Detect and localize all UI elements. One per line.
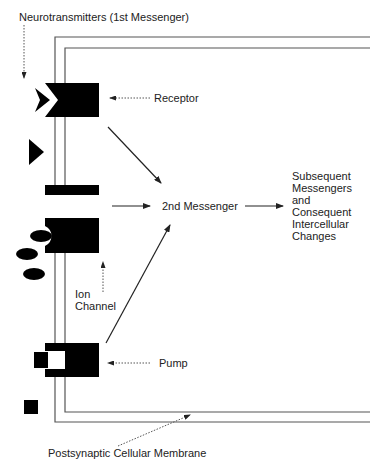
membrane-protein-bar <box>45 185 99 195</box>
subsequent-changes-label: Subsequent Messengers and Consequent Int… <box>292 170 352 242</box>
ion-icon <box>30 230 52 242</box>
pump-label: Pump <box>159 357 188 369</box>
pump-to-second-messenger-arrow <box>106 225 170 343</box>
free-ligand-triangle-icon <box>29 139 44 165</box>
membrane-label: Postsynaptic Cellular Membrane <box>48 447 206 459</box>
neurotransmitters-label: Neurotransmitters (1st Messenger) <box>19 11 189 23</box>
ion-icon <box>23 268 45 280</box>
pump-cargo-square-icon <box>34 352 48 368</box>
pump-shape <box>45 343 99 377</box>
ion-channel-shape <box>45 218 99 253</box>
receptor-to-second-messenger-arrow <box>108 127 161 183</box>
free-cargo-square-icon <box>24 400 38 414</box>
receptor-shape <box>45 83 99 117</box>
ligand-triangle-icon <box>35 88 50 112</box>
ion-channel-label: Ion Channel <box>75 288 116 312</box>
ion-icon <box>16 248 38 260</box>
second-messenger-label: 2nd Messenger <box>162 200 238 212</box>
receptor-label: Receptor <box>154 92 199 104</box>
membrane-pointer <box>118 415 190 446</box>
